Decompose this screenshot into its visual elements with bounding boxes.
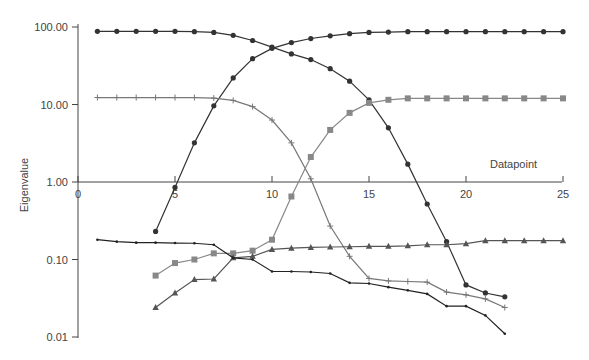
y-tick-label: 100.00 — [34, 21, 68, 33]
eigenvalue-chart: 100.0010.001.000.100.010510152025Datapoi… — [0, 0, 589, 360]
x-tick-label: 20 — [460, 188, 472, 200]
y-axis-label: Eigenvalue — [18, 158, 30, 212]
x-tick-label: 25 — [557, 188, 569, 200]
x-axis-label: Datapoint — [490, 158, 537, 170]
y-tick-label: 10.00 — [40, 99, 68, 111]
y-tick-label: 0.10 — [47, 254, 68, 266]
x-tick-label: 0 — [75, 188, 81, 200]
y-tick-label: 0.01 — [47, 331, 68, 343]
series-small-dot — [97, 240, 504, 334]
series-circle-desc — [97, 31, 504, 297]
series-circle-asc — [156, 32, 563, 232]
x-tick-label: 15 — [363, 188, 375, 200]
series-square — [156, 98, 563, 275]
x-tick-label: 10 — [266, 188, 278, 200]
y-tick-label: 1.00 — [47, 176, 68, 188]
chart: 100.0010.001.000.100.010510152025Datapoi… — [0, 0, 589, 360]
